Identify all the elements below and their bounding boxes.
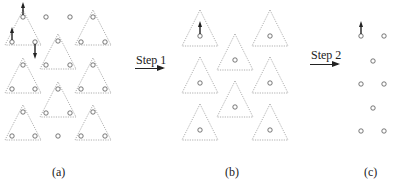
triangle-group [252,10,288,46]
node-circle [33,40,37,44]
caption-c: (c) [364,165,377,180]
up-arrow-icon [198,21,202,34]
node-circle [103,87,107,91]
triangle-group [182,104,218,140]
step-1-right-arrow-icon [135,68,163,69]
node-circle [268,81,272,85]
node-circle [68,111,72,115]
down-arrow-icon [33,44,37,59]
node-circle [68,15,72,19]
node-circle [268,128,272,132]
node-circle [21,15,25,19]
triangle-group [252,57,288,93]
node-circle [382,34,386,38]
node-circle [79,40,83,44]
node-circle [21,63,25,67]
node-circle [79,87,83,91]
node-circle [33,134,37,138]
node-circle [233,58,237,62]
node-circle [359,129,363,133]
node-circle [56,87,60,91]
node-circle [44,63,48,67]
node-circle [91,110,95,114]
node-circle [382,82,386,86]
node-circle [44,111,48,115]
node-circle [198,81,202,85]
triangle-group [252,104,288,140]
node-circle [79,134,83,138]
node-circle [359,82,363,86]
node-circle [33,87,37,91]
node-circle [10,87,14,91]
up-arrow-icon [359,21,363,34]
node-circle [21,110,25,114]
node-circle [233,105,237,109]
triangle-group [182,57,218,93]
node-circle [371,106,375,110]
triangle-group [217,34,253,70]
caption-b: (b) [225,165,239,180]
node-circle [44,15,48,19]
node-circle [56,134,60,138]
node-circle [268,34,272,38]
node-circle [198,128,202,132]
node-circle [91,15,95,19]
panel-c-lattice [359,21,386,133]
node-circle [10,134,14,138]
triangle-group [217,81,253,117]
node-circle [371,59,375,63]
node-circle [91,63,95,67]
node-circle [56,39,60,43]
node-circle [68,63,72,67]
step-2-right-arrow-icon [310,64,338,65]
node-circle [103,134,107,138]
node-circle [10,40,14,44]
node-circle [103,40,107,44]
panel-a-lattice [5,2,111,140]
node-circle [198,34,202,38]
panel-b-lattice [182,10,288,140]
diagram-canvas [0,0,396,187]
node-circle [359,34,363,38]
node-circle [382,129,386,133]
caption-a: (a) [52,165,65,180]
